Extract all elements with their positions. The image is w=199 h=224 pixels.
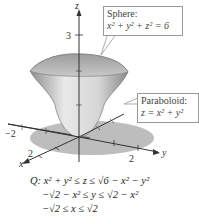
constraint-y: −√2 − x² ≤ y ≤ √2 − x² — [30, 188, 149, 202]
sphere-callout-equation: x² + y² + z² = 6 — [107, 20, 179, 32]
constraint-z: Q: x² + y² ≤ z ≤ √6 − x² − y² — [30, 174, 149, 188]
x-tick-2-label: 2 — [28, 148, 33, 159]
region-constraints: Q: x² + y² ≤ z ≤ √6 − x² − y² −√2 − x² ≤… — [30, 174, 149, 216]
sphere-callout-pointer — [101, 33, 117, 55]
sphere-callout: Sphere: x² + y² + z² = 6 — [103, 6, 183, 36]
paraboloid-callout-pointer — [124, 98, 138, 104]
y-tick-2-label: 2 — [129, 153, 134, 164]
z-axis-label: z — [75, 0, 79, 11]
paraboloid-callout: Paraboloid: z = x² + y² — [137, 93, 199, 123]
y-arrow — [153, 149, 160, 155]
neg-tick-label: −2 — [5, 128, 16, 139]
paraboloid-callout-title: Paraboloid: — [141, 95, 195, 107]
z-tick-3-label: 3 — [66, 30, 71, 41]
constraint-x: −√2 ≤ x ≤ √2 — [30, 202, 149, 216]
sphere-callout-title: Sphere: — [107, 8, 179, 20]
y-axis-label: y — [162, 147, 166, 158]
paraboloid-callout-equation: z = x² + y² — [141, 107, 195, 119]
x-axis-label: x — [19, 158, 23, 169]
